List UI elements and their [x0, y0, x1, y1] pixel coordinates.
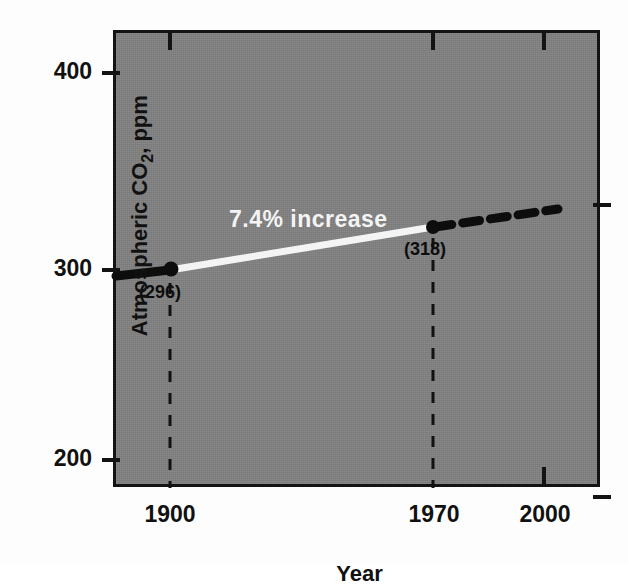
y-axis-title: Atmospheric CO2, ppm [127, 86, 156, 346]
series-projection-line [435, 209, 558, 227]
series-increase-line [170, 227, 433, 270]
y-tick-label-400: 400 [12, 58, 92, 85]
y-axis-tick-right-lower [593, 495, 611, 499]
marker-1900 [164, 262, 179, 277]
y-axis-title-suffix: , ppm [127, 95, 152, 154]
x-tick-label-2000: 2000 [485, 501, 605, 528]
plot-area: (296) (318) 7.4% increase 1900 1970 2000… [113, 30, 600, 487]
y-axis-title-prefix: Atmospheric CO [127, 163, 152, 337]
x-tick-label-1970: 1970 [374, 501, 494, 528]
increase-annotation-text: 7.4% increase [229, 206, 388, 233]
y-axis-title-subscript: 2 [139, 154, 156, 163]
data-layer [116, 33, 603, 490]
y-tick-label-200: 200 [12, 445, 92, 472]
x-axis-title: Year [116, 561, 603, 585]
x-tick-label-1900: 1900 [110, 501, 230, 528]
marker-label-1970: (318) [404, 239, 446, 260]
y-tick-label-300: 300 [12, 255, 92, 282]
marker-1970 [426, 220, 440, 234]
